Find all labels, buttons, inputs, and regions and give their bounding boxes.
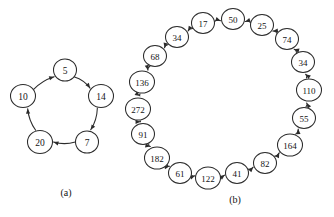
node-label: 61 bbox=[176, 169, 185, 179]
arrowhead-25-to-50 bbox=[245, 18, 250, 22]
graph-node-182: 182 bbox=[145, 147, 170, 169]
graph-node-82: 82 bbox=[254, 153, 277, 174]
node-label: 74 bbox=[283, 35, 293, 45]
node-label: 55 bbox=[300, 114, 310, 124]
graph-node-91: 91 bbox=[132, 124, 155, 145]
graph-node-136: 136 bbox=[130, 71, 155, 93]
graph-node-110: 110 bbox=[297, 79, 322, 101]
graph-node-14: 14 bbox=[89, 85, 114, 108]
node-layer: 51472010 bbox=[11, 59, 114, 154]
arrowhead-17-to-50 bbox=[215, 17, 220, 21]
node-label: 25 bbox=[258, 21, 268, 31]
node-label: 7 bbox=[85, 138, 90, 148]
graph-node-41: 41 bbox=[226, 163, 249, 184]
node-label: 20 bbox=[35, 138, 45, 148]
graph-node-7: 7 bbox=[76, 131, 99, 153]
node-label: 5 bbox=[63, 66, 68, 76]
graph-node-61: 61 bbox=[169, 163, 192, 184]
node-label: 110 bbox=[302, 86, 316, 96]
graph-node-17: 17 bbox=[192, 13, 215, 34]
panel-b: 5025743411055164824112261182912721366834… bbox=[126, 9, 322, 190]
node-label: 136 bbox=[135, 78, 149, 88]
figure-root: 51472010 5025743411055164824112261182912… bbox=[0, 0, 334, 217]
node-label: 68 bbox=[151, 52, 161, 62]
node-label: 122 bbox=[201, 174, 215, 184]
arrowhead-7-to-20 bbox=[54, 141, 59, 145]
node-label: 41 bbox=[233, 169, 242, 179]
arrowhead-10-to-5 bbox=[49, 76, 54, 80]
arrowhead-164-to-55 bbox=[296, 129, 300, 134]
node-label: 10 bbox=[18, 92, 28, 102]
graph-node-34: 34 bbox=[292, 52, 315, 73]
node-label: 91 bbox=[139, 130, 148, 140]
graph-node-55: 55 bbox=[293, 108, 316, 129]
node-label: 34 bbox=[299, 58, 309, 68]
graph-node-25: 25 bbox=[251, 15, 274, 36]
graph-node-34b: 34 bbox=[166, 27, 189, 48]
arrowhead-41-to-82 bbox=[248, 167, 253, 172]
graph-node-68: 68 bbox=[144, 46, 167, 67]
node-label: 164 bbox=[283, 141, 297, 151]
caption-panel-b: (b) bbox=[229, 194, 241, 206]
graph-node-164: 164 bbox=[278, 134, 303, 156]
graph-node-74: 74 bbox=[276, 29, 299, 50]
node-label: 34 bbox=[173, 33, 183, 43]
graph-node-10: 10 bbox=[11, 85, 36, 108]
cycle-diagram-figure: 51472010 5025743411055164824112261182912… bbox=[0, 0, 334, 217]
node-label: 17 bbox=[199, 19, 209, 29]
caption-layer: (a)(b) bbox=[60, 187, 240, 206]
node-label: 50 bbox=[229, 15, 239, 25]
node-label: 182 bbox=[150, 154, 164, 164]
node-layer: 5025743411055164824112261182912721366834… bbox=[126, 9, 322, 190]
graph-node-272: 272 bbox=[126, 98, 151, 120]
graph-node-122: 122 bbox=[196, 167, 221, 189]
graph-node-20: 20 bbox=[28, 131, 53, 154]
graph-node-5: 5 bbox=[54, 59, 77, 81]
node-label: 82 bbox=[261, 159, 270, 169]
graph-node-50: 50 bbox=[222, 9, 245, 30]
node-label: 272 bbox=[131, 105, 145, 115]
caption-panel-a: (a) bbox=[60, 187, 71, 199]
node-label: 14 bbox=[96, 92, 106, 102]
panel-a: 51472010 bbox=[11, 59, 114, 154]
